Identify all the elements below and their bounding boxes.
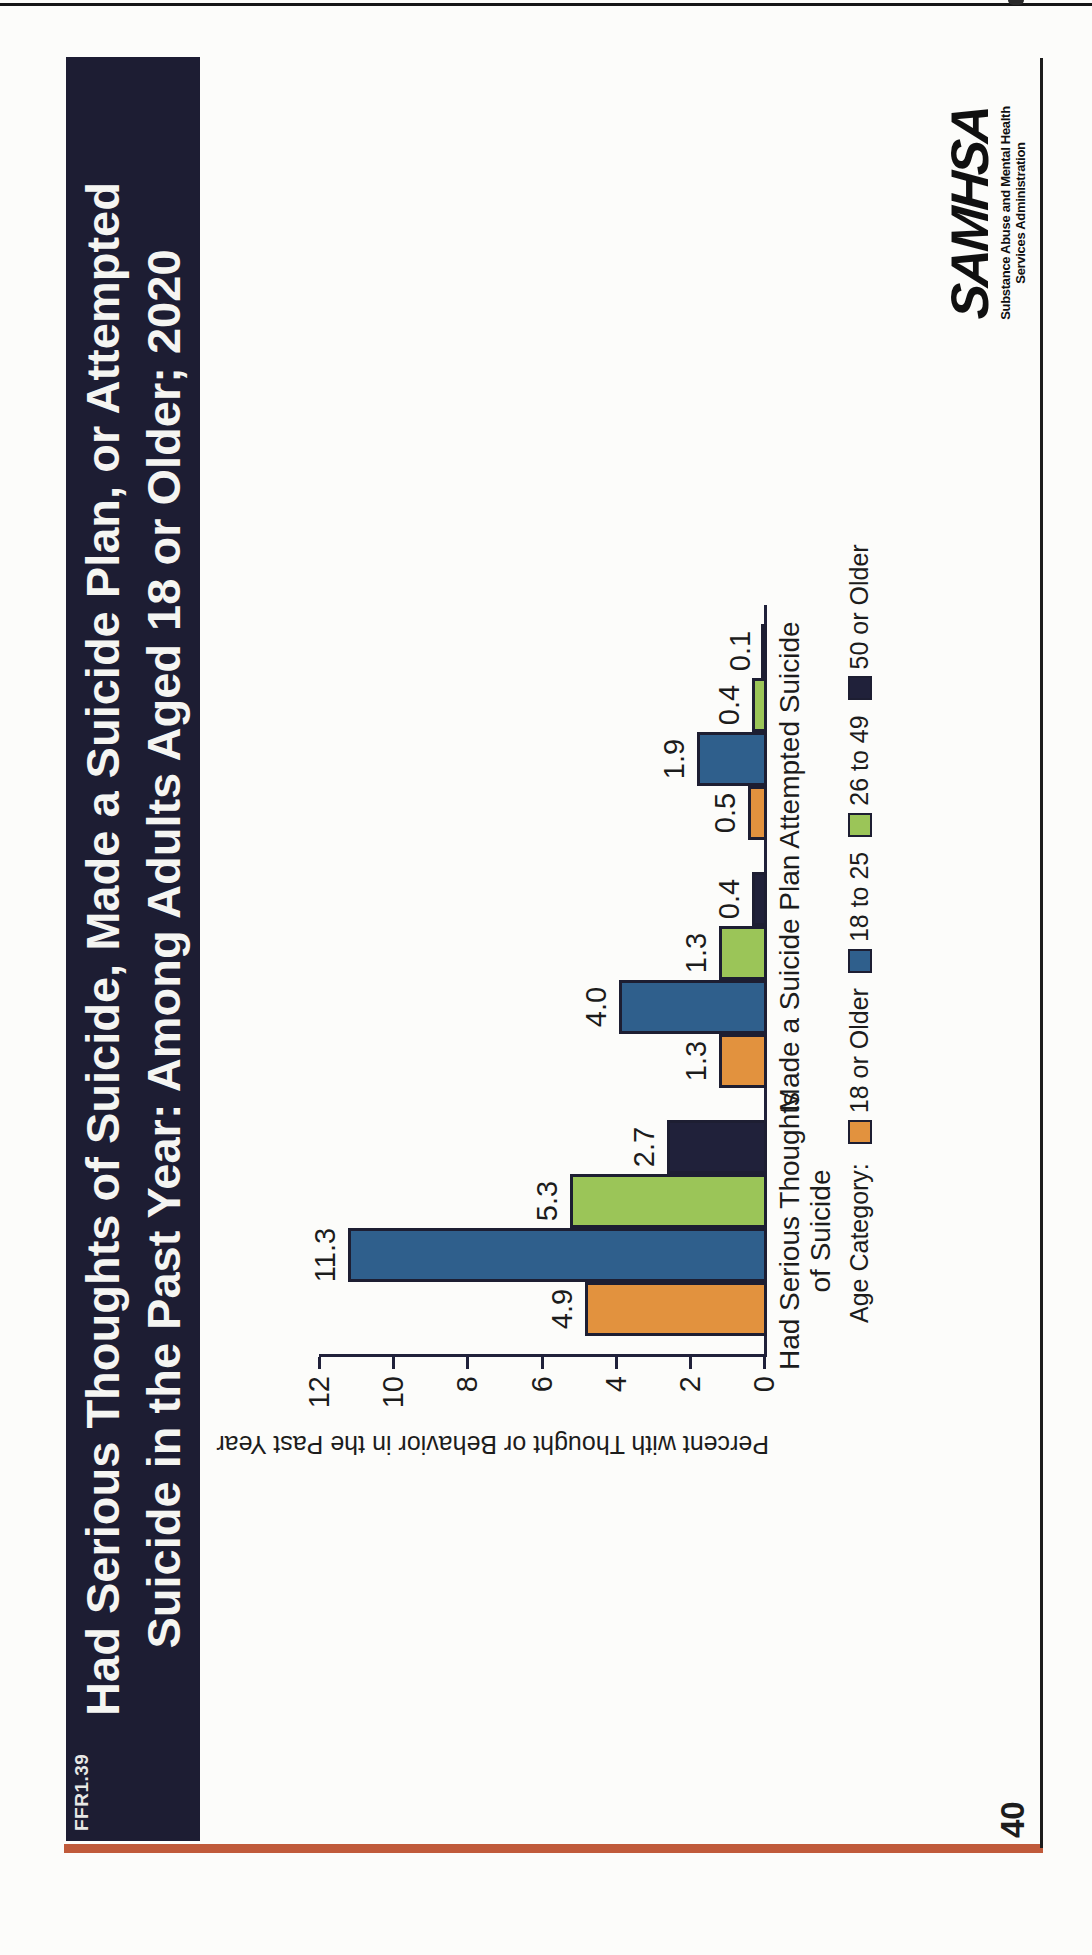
category-label: Had Serious Thoughtsof Suicide bbox=[774, 1091, 836, 1371]
slide-title-line-1: Had Serious Thoughts of Suicide, Made a … bbox=[72, 91, 133, 1807]
bar-value-label: 1.3 bbox=[680, 1024, 713, 1098]
legend-item-label: 18 or Older bbox=[845, 988, 874, 1113]
y-axis-tick bbox=[763, 1357, 766, 1369]
y-axis-tick bbox=[689, 1357, 692, 1369]
bar-value-label: 4.9 bbox=[546, 1272, 579, 1346]
bar-18-or-older bbox=[748, 786, 767, 840]
bar-value-label: 0.4 bbox=[713, 862, 746, 936]
bar-value-label: 4.0 bbox=[580, 970, 613, 1044]
scanned-page: FFR1.39 Had Serious Thoughts of Suicide,… bbox=[0, 0, 1092, 1955]
bar-value-label: 1.9 bbox=[658, 722, 691, 796]
bar-50-or-older bbox=[752, 872, 767, 926]
bar-50-or-older bbox=[667, 1120, 767, 1174]
bar-18-or-older bbox=[719, 1034, 767, 1088]
category-label: Attempted Suicide bbox=[774, 595, 805, 875]
y-axis-tick bbox=[466, 1357, 469, 1369]
slide-page-number: 40 bbox=[994, 1801, 1032, 1838]
legend-item-label: 50 or Older bbox=[845, 544, 874, 669]
legend-swatch bbox=[848, 676, 872, 700]
y-axis-tick bbox=[615, 1357, 618, 1369]
bar-value-label: 1.3 bbox=[680, 916, 713, 990]
y-axis-tick-label: 6 bbox=[526, 1376, 559, 1428]
samhsa-logo-wordmark: SAMHSA bbox=[942, 89, 998, 337]
y-axis-tick bbox=[318, 1357, 321, 1369]
samhsa-logo: SAMHSA Substance Abuse and Mental Health… bbox=[942, 91, 1028, 335]
legend-item-label: 26 to 49 bbox=[845, 715, 874, 805]
legend-swatch bbox=[848, 813, 872, 837]
category-label: Made a Suicide Plan bbox=[774, 843, 805, 1123]
legend-swatch bbox=[848, 1120, 872, 1144]
bar-18-or-older bbox=[585, 1282, 767, 1336]
y-axis-title: Percent with Thought or Behavior in the … bbox=[299, 1427, 769, 1459]
y-axis-tick bbox=[541, 1357, 544, 1369]
legend-title: Age Category: bbox=[845, 1163, 874, 1323]
samhsa-tagline-1: Substance Abuse and Mental Health bbox=[998, 91, 1013, 335]
y-axis-tick-label: 2 bbox=[674, 1376, 707, 1428]
legend-item-26-to-49: 26 to 49 bbox=[845, 715, 874, 836]
chart-legend: Age Category: 18 or Older18 to 2526 to 4… bbox=[845, 544, 874, 1323]
bar-value-label: 0.5 bbox=[709, 776, 742, 850]
slide-title-banner: FFR1.39 Had Serious Thoughts of Suicide,… bbox=[66, 57, 200, 1841]
legend-item-18-or-older: 18 or Older bbox=[845, 988, 874, 1144]
y-axis-tick-label: 12 bbox=[303, 1376, 336, 1428]
slide-bottom-border bbox=[1040, 58, 1043, 1848]
bar-value-label: 5.3 bbox=[531, 1164, 564, 1238]
legend-item-label: 18 to 25 bbox=[845, 852, 874, 942]
bar-value-label: 0.1 bbox=[724, 614, 757, 688]
slide-title-line-2: Suicide in the Past Year: Among Adults A… bbox=[133, 91, 194, 1807]
y-axis-tick-label: 4 bbox=[600, 1376, 633, 1428]
slide-accent-edge-line bbox=[64, 1844, 1043, 1853]
rotated-slide: FFR1.39 Had Serious Thoughts of Suicide,… bbox=[0, 0, 1092, 1955]
legend-swatch bbox=[848, 949, 872, 973]
legend-item-18-to-25: 18 to 25 bbox=[845, 852, 874, 973]
samhsa-tagline-2: Services Administration bbox=[1013, 91, 1028, 335]
plot-area: 0246810124.91.30.511.34.01.95.31.30.42.7… bbox=[319, 605, 767, 1357]
y-axis-tick-label: 10 bbox=[377, 1376, 410, 1428]
legend-item-50-or-older: 50 or Older bbox=[845, 544, 874, 700]
bar-value-label: 2.7 bbox=[628, 1110, 661, 1184]
bar-50-or-older bbox=[761, 624, 767, 678]
y-axis-tick-label: 8 bbox=[451, 1376, 484, 1428]
figure-code: FFR1.39 bbox=[71, 1754, 93, 1831]
y-axis-tick bbox=[392, 1357, 395, 1369]
bar-26-to-49 bbox=[570, 1174, 767, 1228]
y-axis-tick-label: 0 bbox=[748, 1376, 781, 1428]
bar-value-label: 11.3 bbox=[309, 1218, 342, 1292]
